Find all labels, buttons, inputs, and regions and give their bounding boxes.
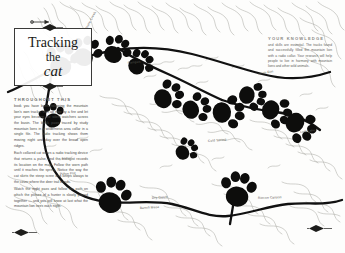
corner-ornament-bottom-right-icon bbox=[307, 224, 333, 233]
paw-print bbox=[216, 169, 260, 210]
paw-print bbox=[170, 132, 204, 167]
ornament-bottom-icon bbox=[43, 83, 63, 90]
right-text-column: YOUR KNOWLEDGE and skills are essential.… bbox=[268, 36, 332, 71]
right-body-text: and skills are essential. The tracks fou… bbox=[268, 43, 332, 69]
left-text-kicker: THROUGHOUT THIS bbox=[14, 97, 88, 102]
paragraph: Watch the night pass and follow the path… bbox=[14, 187, 88, 210]
ornament-top-icon bbox=[43, 24, 63, 31]
title-line-1: Tracking bbox=[28, 36, 78, 50]
right-text-kicker: YOUR KNOWLEDGE bbox=[268, 36, 332, 41]
title-line-2: the bbox=[46, 51, 61, 63]
left-text-column: THROUGHOUT THIS book you have been follo… bbox=[14, 97, 88, 212]
magazine-spread: Tracking the cat THROUGHOUT THIS book yo… bbox=[0, 0, 345, 253]
map-label: Rincon Canyon bbox=[258, 195, 282, 200]
title-line-3: cat bbox=[44, 64, 62, 79]
paragraph: book you have been following the mountai… bbox=[14, 104, 88, 149]
title-cartouche: Tracking the cat bbox=[14, 28, 92, 86]
corner-ornament-bottom-left-icon bbox=[12, 228, 38, 237]
paw-print bbox=[88, 172, 137, 218]
left-body-text: book you have been following the mountai… bbox=[14, 104, 88, 210]
paragraph: Each collared cat wears a radio tracking… bbox=[14, 151, 88, 185]
paragraph: and skills are essential. The tracks fou… bbox=[268, 43, 332, 69]
